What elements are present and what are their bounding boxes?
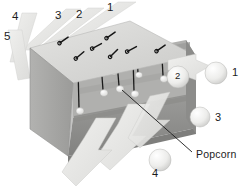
output-ball-1: [205, 62, 227, 84]
output-label-4: 4: [152, 168, 158, 179]
input-label-2: 2: [76, 9, 83, 21]
output-ball-3: [190, 107, 210, 127]
popcorn-apparatus-illustration: [0, 0, 245, 189]
popcorn-callout-label: Popcorn: [196, 149, 237, 160]
input-label-4: 4: [12, 11, 19, 23]
figure-canvas: 1 2 3 4 5 1 3 4 2 Popcorn: [0, 0, 245, 189]
output-label-3: 3: [215, 112, 221, 123]
output-label-1: 1: [232, 67, 238, 78]
output-label-2: 2: [175, 71, 180, 81]
input-label-1: 1: [107, 2, 114, 14]
input-label-3: 3: [55, 10, 62, 22]
input-label-5: 5: [4, 31, 11, 43]
